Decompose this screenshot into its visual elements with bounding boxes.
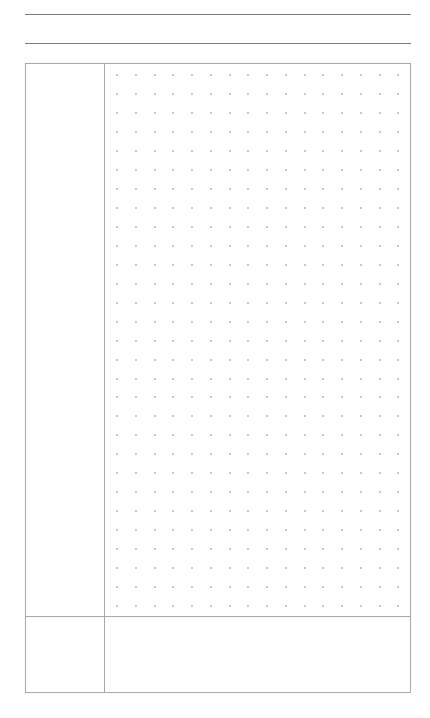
grid-dot <box>191 150 193 152</box>
grid-dot <box>266 378 268 380</box>
grid-dot <box>229 112 231 114</box>
grid-dot <box>360 586 362 588</box>
grid-dot <box>360 226 362 228</box>
grid-dot <box>266 93 268 95</box>
grid-dot <box>397 169 399 171</box>
grid-dot <box>322 74 324 76</box>
grid-dot <box>397 378 399 380</box>
grid-dot <box>341 302 343 304</box>
grid-dot <box>116 283 118 285</box>
grid-dot <box>285 359 287 361</box>
grid-dot <box>360 74 362 76</box>
grid-dot <box>360 150 362 152</box>
grid-dot <box>360 283 362 285</box>
grid-dot <box>116 548 118 550</box>
grid-dot <box>322 434 324 436</box>
grid-dot <box>116 131 118 133</box>
grid-dot <box>247 226 249 228</box>
grid-dot <box>135 150 137 152</box>
grid-dot <box>247 567 249 569</box>
grid-dot <box>379 472 381 474</box>
grid-dot <box>304 207 306 209</box>
grid-dot <box>154 434 156 436</box>
grid-dot <box>322 150 324 152</box>
grid-dot <box>172 548 174 550</box>
grid-dot <box>360 453 362 455</box>
grid-dot <box>135 340 137 342</box>
grid-dot <box>229 567 231 569</box>
grid-dot <box>397 453 399 455</box>
dot-grid-area[interactable] <box>105 64 411 616</box>
grid-dot <box>116 150 118 152</box>
grid-dot <box>210 150 212 152</box>
grid-dot <box>397 434 399 436</box>
grid-dot <box>247 359 249 361</box>
grid-dot <box>172 453 174 455</box>
grid-dot <box>379 245 381 247</box>
grid-dot <box>379 169 381 171</box>
grid-dot <box>341 491 343 493</box>
grid-dot <box>135 226 137 228</box>
grid-dot <box>247 264 249 266</box>
grid-dot <box>154 529 156 531</box>
grid-dot <box>304 302 306 304</box>
grid-dot <box>379 188 381 190</box>
grid-dot <box>360 605 362 607</box>
grid-dot <box>229 321 231 323</box>
grid-dot <box>229 302 231 304</box>
grid-dot <box>191 188 193 190</box>
footer-notes-area[interactable] <box>105 617 411 693</box>
grid-dot <box>266 472 268 474</box>
grid-dot <box>172 245 174 247</box>
grid-dot <box>379 359 381 361</box>
grid-dot <box>210 131 212 133</box>
header-line-2 <box>25 43 411 44</box>
grid-dot <box>304 283 306 285</box>
grid-dot <box>397 74 399 76</box>
main-label-column[interactable] <box>26 64 104 616</box>
grid-dot <box>154 378 156 380</box>
grid-dot <box>154 359 156 361</box>
grid-dot <box>116 378 118 380</box>
grid-dot <box>154 150 156 152</box>
grid-dot <box>360 472 362 474</box>
grid-dot <box>304 93 306 95</box>
grid-dot <box>172 529 174 531</box>
grid-dot <box>322 529 324 531</box>
grid-dot <box>135 245 137 247</box>
grid-dot <box>266 491 268 493</box>
grid-dot <box>322 472 324 474</box>
grid-dot <box>285 74 287 76</box>
grid-dot <box>360 188 362 190</box>
grid-dot <box>397 226 399 228</box>
grid-dot <box>172 93 174 95</box>
grid-dot <box>285 150 287 152</box>
grid-dot <box>304 321 306 323</box>
grid-dot <box>116 226 118 228</box>
grid-dot <box>341 510 343 512</box>
grid-dot <box>247 207 249 209</box>
grid-dot <box>229 207 231 209</box>
grid-dot <box>229 245 231 247</box>
grid-dot <box>304 510 306 512</box>
grid-dot <box>304 112 306 114</box>
grid-dot <box>172 207 174 209</box>
grid-dot <box>191 340 193 342</box>
grid-dot <box>397 548 399 550</box>
grid-dot <box>397 472 399 474</box>
grid-dot <box>210 283 212 285</box>
grid-dot <box>304 188 306 190</box>
grid-dot <box>304 567 306 569</box>
grid-dot <box>229 491 231 493</box>
grid-dot <box>322 586 324 588</box>
grid-dot <box>266 529 268 531</box>
footer-label-column[interactable] <box>26 617 104 693</box>
grid-dot <box>341 567 343 569</box>
grid-dot <box>247 93 249 95</box>
grid-dot <box>304 548 306 550</box>
grid-dot <box>285 510 287 512</box>
grid-dot <box>116 415 118 417</box>
grid-dot <box>285 207 287 209</box>
grid-dot <box>341 472 343 474</box>
grid-dot <box>154 245 156 247</box>
